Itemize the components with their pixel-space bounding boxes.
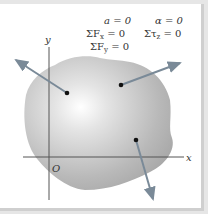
force-point-3 — [134, 138, 139, 143]
y-axis-label: y — [44, 34, 51, 45]
rigid-body-shape — [24, 56, 172, 190]
force-point-1 — [65, 91, 70, 96]
x-axis-label: x — [186, 152, 192, 163]
origin-label: O — [52, 163, 60, 174]
equation-sum-fy: ΣFy = 0 — [90, 41, 129, 54]
equation-angular-accel: α = 0 — [155, 15, 183, 26]
rigid-body-diagram: x y O a = 0 α = 0 ΣFx = 0 Στz = 0 ΣFy = … — [0, 0, 208, 214]
equation-linear-accel: a = 0 — [104, 15, 132, 26]
equation-sum-torque: Στz = 0 — [144, 28, 181, 41]
force-point-2 — [119, 83, 124, 88]
equation-sum-fx: ΣFx = 0 — [86, 28, 125, 41]
